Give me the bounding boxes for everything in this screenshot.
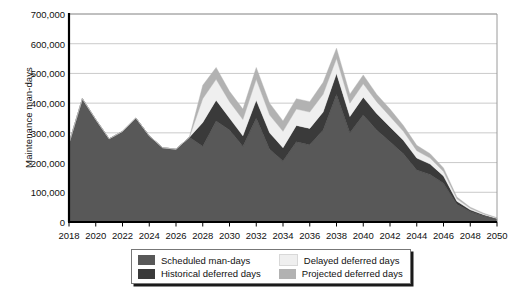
x-axis-tick-label: 2046 xyxy=(433,230,454,241)
x-axis-tick-label: 2028 xyxy=(192,230,213,241)
legend-swatch-icon xyxy=(138,269,155,279)
x-axis-tick-label: 2022 xyxy=(112,230,133,241)
legend-label: Scheduled man-days xyxy=(161,255,250,266)
x-axis-tick-label: 2050 xyxy=(486,230,507,241)
x-axis-tick-label: 2036 xyxy=(299,230,320,241)
x-axis-tick-label: 2038 xyxy=(326,230,347,241)
legend-swatch-icon xyxy=(279,254,298,266)
x-axis-tick-label: 2040 xyxy=(353,230,374,241)
legend-item: Scheduled man-days xyxy=(138,254,261,266)
x-axis-tick-label: 2044 xyxy=(406,230,427,241)
legend-item: Delayed deferred days xyxy=(279,254,403,266)
x-axis-tick-label: 2020 xyxy=(85,230,106,241)
x-axis-tick-label: 2042 xyxy=(379,230,400,241)
x-axis-tick-label: 2032 xyxy=(246,230,267,241)
maintenance-man-days-area-chart: Maintenance man-days 0100,000200,000300,… xyxy=(0,0,515,298)
x-axis-tick-label: 2030 xyxy=(219,230,240,241)
x-axis-tick-label: 2034 xyxy=(272,230,293,241)
legend-swatch-icon xyxy=(138,255,155,265)
chart-legend: Scheduled man-daysDelayed deferred daysH… xyxy=(131,249,411,284)
x-axis-tick-label: 2018 xyxy=(58,230,79,241)
legend-label: Projected deferred days xyxy=(302,268,403,279)
legend-item: Projected deferred days xyxy=(279,268,403,279)
legend-item: Historical deferred days xyxy=(138,268,261,279)
x-axis-tick-label: 2024 xyxy=(139,230,160,241)
legend-label: Delayed deferred days xyxy=(304,255,400,266)
x-axis-tick-label: 2026 xyxy=(165,230,186,241)
legend-swatch-icon xyxy=(279,269,296,279)
x-axis-tick-label: 2048 xyxy=(460,230,481,241)
legend-label: Historical deferred days xyxy=(161,268,261,279)
